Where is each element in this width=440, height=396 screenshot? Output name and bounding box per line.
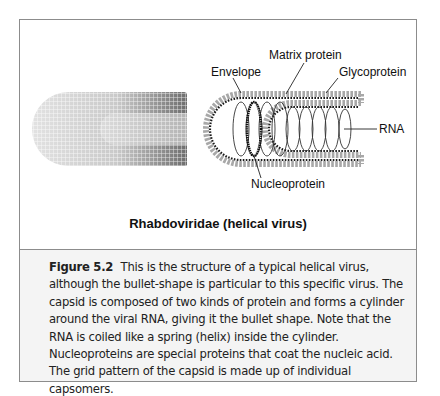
label-rna: RNA bbox=[379, 122, 404, 136]
capsid-shape bbox=[32, 92, 187, 166]
helical-virus-cross-section bbox=[206, 94, 361, 164]
caption-text: This is the structure of a typical helic… bbox=[49, 260, 404, 396]
label-matrix-protein: Matrix protein bbox=[269, 48, 342, 62]
label-glycoprotein: Glycoprotein bbox=[339, 65, 406, 79]
figure-caption: Figure 5.2 This is the structure of a ty… bbox=[20, 249, 416, 381]
figure-label: Figure 5.2 bbox=[49, 260, 113, 274]
diagram-title: Rhabdoviridae (helical virus) bbox=[20, 216, 416, 231]
leader-lines bbox=[233, 63, 377, 178]
virus-diagram: Matrix protein Envelope Glycoprotein RNA… bbox=[20, 20, 416, 248]
label-envelope: Envelope bbox=[211, 65, 261, 79]
label-nucleoprotein: Nucleoprotein bbox=[251, 177, 325, 191]
figure-box: Matrix protein Envelope Glycoprotein RNA… bbox=[19, 19, 417, 382]
caption-paragraph: Figure 5.2 This is the structure of a ty… bbox=[49, 259, 404, 396]
